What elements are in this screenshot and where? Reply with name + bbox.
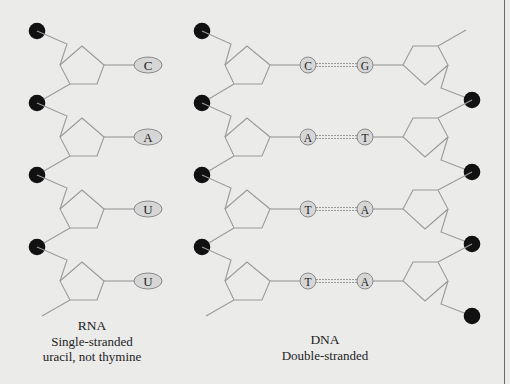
rna-caption: RNA Single-stranded uracil, not thymine (22, 318, 162, 365)
sugar-pentagon-icon (403, 118, 448, 157)
base-letter: U (143, 202, 153, 217)
dna-left-strand: CATT (194, 23, 316, 316)
sugar-pentagon-icon (225, 118, 270, 156)
rna-strand: CAUU (29, 23, 162, 316)
base-letter: A (361, 276, 370, 288)
sugar-pentagon-icon (225, 46, 270, 84)
base-letter: C (144, 58, 153, 73)
backbone-link (438, 100, 472, 118)
phosphate-group-icon (464, 308, 481, 325)
backbone-tail (438, 30, 466, 46)
base-letter: T (304, 276, 311, 288)
dna-caption: DNA Double-stranded (255, 332, 395, 363)
base-letter: T (304, 204, 311, 216)
sugar-pentagon-icon (60, 46, 104, 84)
sugar-pentagon-icon (60, 262, 104, 300)
backbone-link (438, 244, 472, 262)
sugar-pentagon-icon (403, 190, 448, 229)
base-letter: A (361, 204, 370, 216)
dna-caption-line1: Double-stranded (255, 348, 395, 364)
diagram-canvas: CAUU CATT GTAA RNA Single-stranded uraci… (0, 0, 510, 384)
sugar-pentagon-icon (60, 118, 104, 156)
rna-caption-line2: uracil, not thymine (22, 349, 162, 365)
sugar-pentagon-icon (225, 190, 270, 228)
sugar-pentagon-icon (403, 262, 448, 301)
base-letter: G (361, 60, 369, 72)
rna-caption-title: RNA (22, 318, 162, 334)
sugar-pentagon-icon (403, 46, 448, 85)
sugar-pentagon-icon (225, 262, 270, 300)
base-letter: U (143, 274, 153, 289)
backbone-tail (42, 300, 70, 316)
sugar-pentagon-icon (60, 190, 104, 228)
dna-hydrogen-bonds (316, 64, 357, 283)
base-letter: A (304, 132, 313, 144)
dna-right-strand: GTAA (357, 30, 480, 324)
dna-caption-title: DNA (255, 332, 395, 348)
backbone-tail (206, 300, 234, 316)
base-letter: C (304, 60, 312, 72)
rna-caption-line1: Single-stranded (22, 334, 162, 350)
backbone-link (438, 172, 472, 190)
base-letter: T (361, 132, 368, 144)
base-letter: A (143, 130, 153, 145)
right-border-line (504, 0, 505, 384)
